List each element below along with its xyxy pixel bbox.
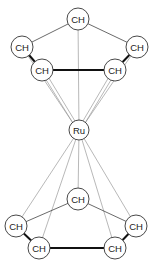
top-ring-node-0: CH xyxy=(67,8,89,30)
node-label: CH xyxy=(9,221,23,232)
node-label: CH xyxy=(71,14,85,25)
top-ring-node-1: CH xyxy=(11,36,33,58)
node-label: CH xyxy=(35,65,49,76)
metal-center-ru: Ru xyxy=(69,120,89,140)
node-label: CH xyxy=(71,194,85,205)
ruthenocene-diagram: CH CH CH CH CH Ru CH CH CH CH CH xyxy=(0,0,158,269)
node-label: CH xyxy=(108,65,122,76)
top-ring-node-3: CH xyxy=(104,59,126,81)
node-label: CH xyxy=(15,42,29,53)
node-label: CH xyxy=(32,243,46,254)
node-label: CH xyxy=(108,243,122,254)
bottom-ring-node-4: CH xyxy=(125,215,147,237)
node-label: CH xyxy=(130,42,144,53)
top-ring-node-2: CH xyxy=(31,59,53,81)
bottom-ring-node-1: CH xyxy=(5,215,27,237)
bottom-ring-node-0: CH xyxy=(67,188,89,210)
top-ring-node-4: CH xyxy=(126,36,148,58)
metal-label: Ru xyxy=(73,125,85,136)
bottom-ring-node-2: CH xyxy=(28,237,50,259)
node-label: CH xyxy=(129,221,143,232)
bottom-ring-node-3: CH xyxy=(104,237,126,259)
